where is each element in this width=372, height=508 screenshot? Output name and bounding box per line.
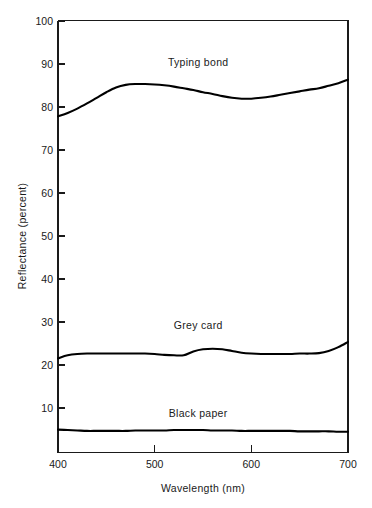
x-tick-label: 700: [339, 458, 357, 470]
y-tick-label: 10: [41, 402, 53, 414]
series-label-black-paper: Black paper: [169, 407, 228, 419]
y-tick-label: 50: [41, 230, 53, 242]
x-tick-label: 600: [243, 458, 261, 470]
y-tick-label: 60: [41, 187, 53, 199]
y-tick-label: 70: [41, 144, 53, 156]
x-axis-title: Wavelength (nm): [161, 482, 245, 494]
series-label-grey-card: Grey card: [174, 319, 223, 331]
x-tick-label: 500: [146, 458, 164, 470]
x-tick-label: 400: [49, 458, 67, 470]
y-axis-title: Reflectance (percent): [16, 183, 28, 290]
y-tick-label: 20: [41, 359, 53, 371]
y-tick-label: 80: [41, 101, 53, 113]
y-tick-label: 90: [41, 58, 53, 70]
y-tick-label: 30: [41, 316, 53, 328]
y-tick-label: 40: [41, 273, 53, 285]
series-label-typing-bond: Typing bond: [168, 56, 229, 68]
y-tick-label: 100: [35, 15, 53, 27]
reflectance-spectra-chart: 100 90 80 70 60 50 40 30 20 10 400 500 6…: [0, 0, 372, 508]
